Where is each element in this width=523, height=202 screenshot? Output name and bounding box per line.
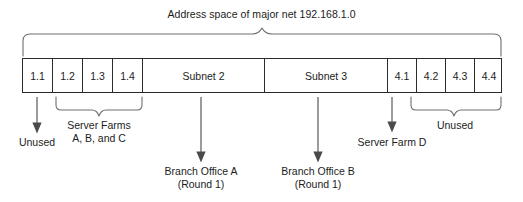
diagram-title: Address space of major net 192.168.1.0 <box>0 8 523 20</box>
bar-cell: 4.1 <box>388 59 417 92</box>
address-space-allocation-diagram: Address space of major net 192.168.1.0 1… <box>0 0 523 202</box>
label-unused-right: Unused <box>437 119 473 132</box>
unused-right-brace <box>411 97 501 116</box>
label-unused-left: Unused <box>19 136 55 149</box>
bar-cell: 1.2 <box>53 59 83 92</box>
bar-cell: 1.4 <box>113 59 143 92</box>
bar-cell: Subnet 2 <box>143 59 265 92</box>
server-farms-brace <box>56 97 142 116</box>
label-server-farm-d: Server Farm D <box>358 136 427 149</box>
label-branch-office-b-line1: Branch Office B <box>281 165 354 177</box>
bar-cell: 4.2 <box>417 59 446 92</box>
server-farm-d-arrow-head <box>388 122 396 131</box>
bar-cell: Subnet 3 <box>265 59 388 92</box>
label-branch-office-b-line2: (Round 1) <box>281 178 354 191</box>
connector-overlay <box>0 0 523 202</box>
bar-cell: 1.1 <box>23 59 53 92</box>
bar-cell: 1.3 <box>83 59 113 92</box>
bar-cell: 4.3 <box>446 59 475 92</box>
branch-office-b-arrow-head <box>314 152 322 161</box>
label-server-farms-line2: A, B, and C <box>67 132 131 145</box>
label-branch-office-a: Branch Office A (Round 1) <box>165 165 238 191</box>
top-brace <box>23 28 501 56</box>
label-server-farms: Server Farms A, B, and C <box>67 119 131 145</box>
branch-office-a-arrow-head <box>197 152 205 161</box>
bar-cell: 4.4 <box>475 59 503 92</box>
label-server-farms-line1: Server Farms <box>67 119 131 131</box>
address-space-bar: 1.11.21.31.4Subnet 2Subnet 34.14.24.34.4 <box>22 58 502 93</box>
label-branch-office-a-line1: Branch Office A <box>165 165 238 177</box>
label-branch-office-b: Branch Office B (Round 1) <box>281 165 354 191</box>
label-branch-office-a-line2: (Round 1) <box>165 178 238 191</box>
unused-left-arrow-head <box>33 123 41 132</box>
